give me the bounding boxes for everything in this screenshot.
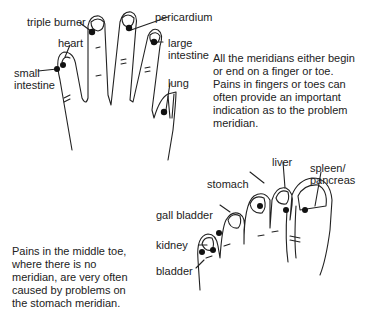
label-liver: liver bbox=[272, 156, 292, 168]
small-intestine-point bbox=[54, 66, 60, 72]
label-small-intestine-1: small bbox=[14, 67, 40, 79]
bladder-point bbox=[199, 249, 205, 255]
label-spleen-2: pancreas bbox=[310, 174, 355, 186]
heart-point bbox=[60, 62, 66, 68]
lung-point bbox=[161, 109, 167, 115]
label-large-intestine-1: large bbox=[168, 37, 192, 49]
stomach-point bbox=[257, 203, 263, 209]
liver-point bbox=[283, 207, 289, 213]
kidney-point bbox=[210, 247, 216, 253]
label-pericardium: pericardium bbox=[155, 11, 212, 23]
middle-toe-paragraph: Pains in the middle toe, where there is … bbox=[12, 245, 142, 310]
spleen-point bbox=[302, 207, 308, 213]
label-kidney: kidney bbox=[156, 239, 188, 251]
label-stomach: stomach bbox=[207, 178, 249, 190]
label-bladder: bladder bbox=[156, 265, 193, 277]
triple-burner-point bbox=[89, 29, 95, 35]
label-lung: lung bbox=[168, 77, 189, 89]
label-large-intestine-2: intestine bbox=[168, 49, 209, 61]
pericardium-point bbox=[126, 25, 132, 31]
meridians-paragraph: All the meridians either begin or end on… bbox=[213, 52, 363, 130]
label-spleen-1: spleen/ bbox=[310, 162, 345, 174]
gall-bladder-point bbox=[216, 230, 222, 236]
label-triple-burner: triple burner bbox=[27, 16, 86, 28]
label-gall-bladder: gall bladder bbox=[156, 209, 213, 221]
label-small-intestine-2: intestine bbox=[14, 79, 55, 91]
label-heart: heart bbox=[58, 37, 83, 49]
large-intestine-point bbox=[151, 39, 157, 45]
